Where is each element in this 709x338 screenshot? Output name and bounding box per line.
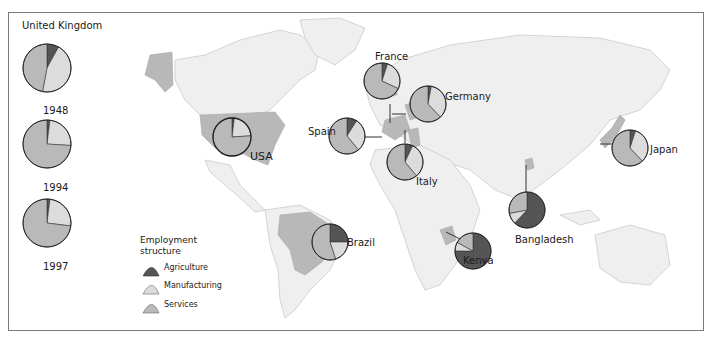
agriculture-swatch-icon (143, 268, 159, 277)
legend-item-services: Services (164, 300, 198, 309)
label-spain: Spain (308, 126, 336, 137)
pie-usa (213, 118, 251, 156)
label-italy: Italy (416, 176, 438, 187)
pie-united-kingdom-1994 (23, 120, 71, 168)
uk-year-1997: 1997 (43, 261, 68, 272)
services-swatch-icon (143, 305, 159, 314)
pie-france (364, 63, 400, 99)
label-japan: Japan (650, 144, 678, 155)
pie-united-kingdom-1948 (23, 44, 71, 92)
manufacturing-swatch-icon (143, 286, 159, 295)
pie-united-kingdom-1997 (23, 199, 71, 247)
label-france: France (375, 51, 408, 62)
legend: Employment structure Agriculture Manufac… (140, 235, 250, 315)
legend-item-agriculture: Agriculture (164, 263, 208, 272)
label-bangladesh: Bangladesh (515, 234, 574, 245)
uk-year-1994: 1994 (43, 182, 68, 193)
pie-italy (387, 144, 423, 180)
pie-japan (612, 130, 648, 166)
label-germany: Germany (445, 91, 491, 102)
pie-germany (410, 86, 446, 122)
pie-bangladesh (509, 192, 545, 228)
uk-year-1948: 1948 (43, 105, 68, 116)
pie-charts (0, 0, 709, 338)
legend-item-manufacturing: Manufacturing (164, 281, 222, 290)
pie-brazil (312, 224, 348, 260)
label-brazil: Brazil (347, 237, 375, 248)
label-kenya: Kenya (463, 255, 494, 266)
label-usa: USA (250, 150, 273, 163)
uk-panel-title: United Kingdom (22, 20, 102, 31)
